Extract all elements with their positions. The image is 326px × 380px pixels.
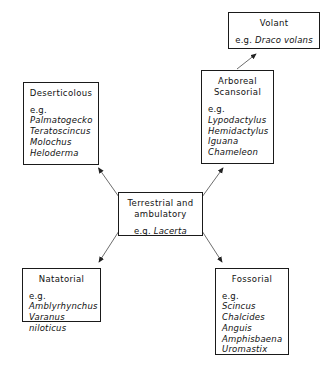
node-natatorial-title: Natatorial	[23, 274, 100, 285]
node-fossorial[interactable]: Fossorial e.g. Scincus Chalcides Anguis …	[215, 268, 289, 355]
node-fossorial-taxon-3: Amphisbaena	[222, 334, 288, 345]
node-deserticolous-title: Deserticolous	[24, 88, 98, 99]
edge-center-to-arboreal	[202, 168, 223, 197]
edge-center-to-fossorial	[202, 231, 222, 262]
node-arboreal-taxon-1: Hemidactylus	[208, 126, 273, 137]
node-terrestrial-ambulatory[interactable]: Terrestrial and ambulatory e.g. Lacerta	[118, 192, 203, 236]
node-deserticolous-taxon-3: Heloderma	[30, 148, 98, 159]
node-deserticolous-taxon-0: Palmatogecko	[30, 115, 98, 126]
node-deserticolous-taxon-1: Teratoscincus	[30, 126, 98, 137]
node-arboreal-eg-label: e.g.	[208, 104, 225, 114]
node-fossorial-title: Fossorial	[216, 274, 288, 285]
node-center-taxon-0: Lacerta	[154, 226, 187, 236]
node-fossorial-body: e.g. Scincus Chalcides Anguis Amphisbaen…	[222, 291, 288, 356]
node-arboreal-body: e.g. Lypodactylus Hemidactylus Iguana Ch…	[208, 104, 273, 158]
node-deserticolous-taxon-2: Molochus	[30, 137, 98, 148]
edge-center-to-natatorial	[99, 231, 119, 262]
node-fossorial-eg-label: e.g.	[222, 291, 239, 301]
node-natatorial-taxon-1: Varanus niloticus	[29, 312, 100, 334]
node-fossorial-taxon-2: Anguis	[222, 323, 288, 334]
node-natatorial-body: e.g. Amblyrhynchus Varanus niloticus	[29, 291, 100, 334]
edge-center-to-deserticolous	[99, 168, 120, 197]
node-volant-eg-label: e.g.	[235, 35, 255, 45]
node-natatorial-eg-label: e.g.	[29, 291, 46, 301]
node-volant-taxon-0: Draco volans	[255, 35, 313, 45]
node-natatorial[interactable]: Natatorial e.g. Amblyrhynchus Varanus ni…	[22, 268, 101, 322]
node-center-eg-label: e.g.	[134, 226, 154, 236]
node-deserticolous[interactable]: Deserticolous e.g. Palmatogecko Teratosc…	[23, 82, 99, 165]
diagram-canvas: Volant e.g. Draco volans Arboreal Scanso…	[0, 0, 326, 380]
node-volant-title: Volant	[229, 18, 319, 29]
node-center-title: Terrestrial and ambulatory	[119, 198, 202, 219]
node-natatorial-taxon-0: Amblyrhynchus	[29, 301, 100, 312]
node-deserticolous-body: e.g. Palmatogecko Teratoscincus Molochus…	[30, 105, 98, 159]
node-volant[interactable]: Volant e.g. Draco volans	[228, 12, 320, 49]
node-deserticolous-eg-label: e.g.	[30, 105, 47, 115]
node-fossorial-taxon-4: Uromastix	[222, 344, 288, 355]
node-arboreal-taxon-0: Lypodactylus	[208, 115, 273, 126]
node-arboreal-scansorial[interactable]: Arboreal Scansorial e.g. Lypodactylus He…	[201, 70, 274, 164]
node-fossorial-taxon-1: Chalcides	[222, 312, 288, 323]
node-arboreal-taxon-2: Iguana	[208, 136, 273, 147]
node-fossorial-taxon-0: Scincus	[222, 301, 288, 312]
edge-arboreal-to-volant	[237, 54, 256, 69]
node-center-body: e.g. Lacerta	[119, 226, 202, 237]
node-volant-body: e.g. Draco volans	[229, 35, 319, 46]
node-arboreal-taxon-3: Chameleon	[208, 147, 273, 158]
node-arboreal-title: Arboreal Scansorial	[202, 76, 273, 97]
